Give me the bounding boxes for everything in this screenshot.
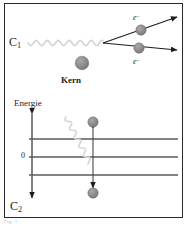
label-electron-upper-charge: − [137,13,141,19]
figure-vector-layer [0,0,190,227]
particle-lower-state [88,188,98,198]
compton-scattering-diagram [28,17,177,70]
label-c1: C1 [9,36,21,50]
electron-upper [136,25,146,35]
label-c2-text: C [10,199,18,213]
label-c2: C2 [10,200,22,214]
nucleus [75,56,89,70]
label-electron-upper: e− [133,14,140,22]
label-c1-subscript: 1 [17,41,21,50]
label-c2-subscript: 2 [18,205,22,214]
figure-caption: Fig. 1 [4,219,17,224]
label-electron-lower-charge: − [137,57,141,63]
label-energie: Energie [14,99,42,108]
figure-root: C1 Kern e− e− Energie 0 C2 Fig. 1 [0,0,190,227]
incoming-photon-wave [28,40,103,45]
energy-level-diagram [29,114,178,198]
electron-lower [134,43,144,53]
label-c1-text: C [9,35,17,49]
label-zero: 0 [21,152,25,160]
label-electron-lower: e− [133,58,140,66]
particle-upper-state [88,117,98,127]
label-kern: Kern [61,76,81,85]
